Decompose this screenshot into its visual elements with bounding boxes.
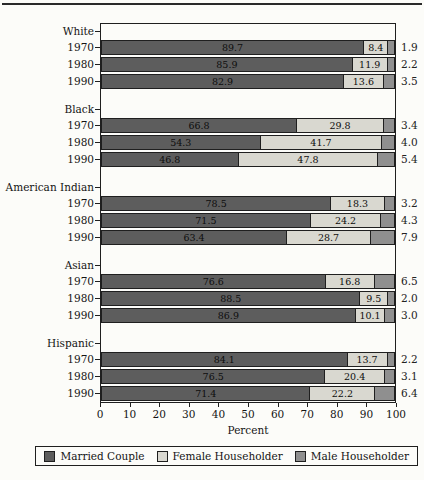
year-label: 1970 xyxy=(67,40,94,55)
male-householder-value-label: 3.1 xyxy=(401,369,418,384)
y-axis-tick xyxy=(95,125,100,126)
segment-married-couple: 66.8 xyxy=(102,119,297,132)
year-label: 1970 xyxy=(67,352,94,367)
x-axis-tick xyxy=(248,403,249,407)
group-row-american-indian: American Indian xyxy=(101,168,395,195)
male-householder-value-label: 7.9 xyxy=(401,230,418,245)
segment-married-couple: 86.9 xyxy=(102,309,356,322)
segment-value-label: 76.5 xyxy=(203,371,224,382)
x-axis-tick-label: 80 xyxy=(330,408,343,420)
x-axis-tick-label: 60 xyxy=(271,408,284,420)
segment-male-householder xyxy=(382,136,394,149)
legend-label: Female Householder xyxy=(173,450,283,462)
bar-row-hispanic-1970: 197084.113.72.2 xyxy=(101,351,395,368)
segment-value-label: 63.4 xyxy=(183,232,204,243)
segment-married-couple: 89.7 xyxy=(102,41,364,54)
segment-value-label: 29.8 xyxy=(329,120,350,131)
x-axis-tick xyxy=(130,403,131,407)
segment-value-label: 82.9 xyxy=(212,76,233,87)
segment-female-householder: 20.4 xyxy=(325,370,385,383)
year-label: 1970 xyxy=(67,118,94,133)
male-householder-value-label: 5.4 xyxy=(401,152,418,167)
x-axis-tick-label: 30 xyxy=(182,408,195,420)
segment-value-label: 22.2 xyxy=(332,388,353,399)
segment-married-couple: 82.9 xyxy=(102,75,344,88)
segment-male-householder xyxy=(385,197,394,210)
stacked-bar: 84.113.7 xyxy=(101,352,395,367)
x-axis-tick xyxy=(307,403,308,407)
segment-male-householder xyxy=(381,214,394,227)
plot-area: White197089.78.41.9198085.911.92.2199082… xyxy=(100,23,396,403)
segment-female-householder: 29.8 xyxy=(297,119,384,132)
x-axis: 0102030405060708090100 xyxy=(100,403,396,422)
y-axis-tick xyxy=(95,31,100,32)
segment-female-householder: 28.7 xyxy=(287,231,371,244)
stacked-bar: 88.59.5 xyxy=(101,291,395,306)
bar-row-american-indian-1980: 198071.524.24.3 xyxy=(101,212,395,229)
male-householder-value-label: 4.3 xyxy=(401,213,418,228)
y-axis-tick xyxy=(95,281,100,282)
segment-value-label: 28.7 xyxy=(318,232,339,243)
legend-swatch xyxy=(157,451,168,462)
segment-value-label: 20.4 xyxy=(344,371,365,382)
segment-value-label: 16.8 xyxy=(339,276,360,287)
segment-value-label: 13.6 xyxy=(353,76,374,87)
stacked-bar: 66.829.8 xyxy=(101,118,395,133)
segment-female-householder: 13.7 xyxy=(348,353,388,366)
legend-item-married-couple: Married Couple xyxy=(44,450,144,462)
male-householder-value-label: 6.5 xyxy=(401,274,418,289)
segment-value-label: 88.5 xyxy=(220,293,241,304)
segment-married-couple: 84.1 xyxy=(102,353,348,366)
year-label: 1990 xyxy=(67,308,94,323)
bar-row-american-indian-1990: 199063.428.77.9 xyxy=(101,229,395,246)
bar-row-white-1970: 197089.78.41.9 xyxy=(101,39,395,56)
y-axis-tick xyxy=(95,47,100,48)
segment-male-householder xyxy=(371,231,394,244)
x-axis-tick xyxy=(396,403,397,407)
segment-male-householder xyxy=(385,370,394,383)
x-axis-tick xyxy=(337,403,338,407)
y-axis-tick xyxy=(95,237,100,238)
stacked-bar: 54.341.7 xyxy=(101,135,395,150)
y-axis-tick xyxy=(95,343,100,344)
segment-male-householder xyxy=(384,119,394,132)
bar-row-hispanic-1990: 199071.422.26.4 xyxy=(101,385,395,402)
segment-female-householder: 13.6 xyxy=(344,75,384,88)
group-row-white: White xyxy=(101,24,395,39)
year-label: 1980 xyxy=(67,57,94,72)
segment-married-couple: 88.5 xyxy=(102,292,360,305)
segment-female-householder: 22.2 xyxy=(310,387,375,400)
group-label: Hispanic xyxy=(47,337,94,350)
group-row-black: Black xyxy=(101,90,395,117)
segment-value-label: 84.1 xyxy=(214,354,235,365)
segment-male-householder xyxy=(375,275,394,288)
segment-married-couple: 76.6 xyxy=(102,275,326,288)
y-axis-tick xyxy=(95,159,100,160)
male-householder-value-label: 3.0 xyxy=(401,308,418,323)
segment-male-householder xyxy=(384,75,394,88)
year-label: 1990 xyxy=(67,152,94,167)
x-axis-tick-label: 90 xyxy=(360,408,373,420)
segment-married-couple: 85.9 xyxy=(102,58,353,71)
year-label: 1980 xyxy=(67,369,94,384)
year-label: 1980 xyxy=(67,135,94,150)
y-axis-tick xyxy=(95,376,100,377)
stacked-bar: 78.518.3 xyxy=(101,196,395,211)
segment-value-label: 8.4 xyxy=(368,42,383,53)
x-axis-tick xyxy=(218,403,219,407)
y-axis-tick xyxy=(95,81,100,82)
x-axis-tick xyxy=(189,403,190,407)
year-label: 1980 xyxy=(67,291,94,306)
segment-female-householder: 10.1 xyxy=(356,309,385,322)
y-axis-tick xyxy=(95,298,100,299)
male-householder-value-label: 2.2 xyxy=(401,352,418,367)
bar-row-asian-1990: 199086.910.13.0 xyxy=(101,307,395,324)
x-axis-tick-label: 10 xyxy=(123,408,136,420)
y-axis-tick xyxy=(95,359,100,360)
y-axis-tick xyxy=(95,315,100,316)
bar-row-black-1990: 199046.847.85.4 xyxy=(101,151,395,168)
segment-male-householder xyxy=(388,292,394,305)
segment-value-label: 47.8 xyxy=(297,154,318,165)
year-label: 1990 xyxy=(67,230,94,245)
legend-item-female-householder: Female Householder xyxy=(157,450,283,462)
